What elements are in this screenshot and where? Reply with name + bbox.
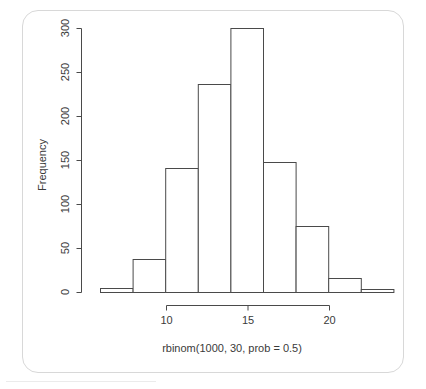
bar-bin-18-20 xyxy=(296,227,329,293)
y-tick-label-50: 50 xyxy=(59,242,71,254)
screenshot-root: 300 250 200 150 100 50 0 Frequency xyxy=(0,0,426,389)
x-tick-label-10: 10 xyxy=(160,314,172,326)
histogram-plot: 300 250 200 150 100 50 0 Frequency xyxy=(0,0,426,389)
bar-bin-8-10 xyxy=(133,260,166,293)
bar-bin-12-14 xyxy=(198,85,231,293)
bar-bin-16-18 xyxy=(264,163,297,293)
bar-bin-10-12 xyxy=(166,169,199,293)
y-tick-label-100: 100 xyxy=(59,195,71,213)
bar-bin-20-22 xyxy=(329,279,362,293)
bar-bin-14-16 xyxy=(231,29,264,293)
y-tick-label-200: 200 xyxy=(59,107,71,125)
x-tick-label-15: 15 xyxy=(242,314,254,326)
x-axis-title: rbinom(1000, 30, prob = 0.5) xyxy=(162,342,302,354)
x-axis: 10 15 20 rbinom(1000, 30, prob = 0.5) xyxy=(160,306,335,355)
y-tick-label-0: 0 xyxy=(59,289,71,295)
y-tick-label-250: 250 xyxy=(59,63,71,81)
bar-bin-22-24 xyxy=(361,290,394,293)
y-tick-label-150: 150 xyxy=(59,151,71,169)
y-tick-label-300: 300 xyxy=(59,19,71,37)
y-axis: 300 250 200 150 100 50 0 Frequency xyxy=(36,19,82,295)
histogram-bars xyxy=(101,29,394,293)
y-axis-title: Frequency xyxy=(36,139,48,191)
x-tick-label-20: 20 xyxy=(323,314,335,326)
bar-bin-6-8 xyxy=(101,289,134,293)
